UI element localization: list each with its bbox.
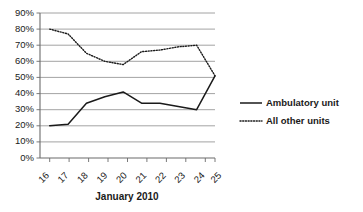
legend: Ambulatory unit All other units	[240, 97, 340, 126]
series-line-ambulatory-unit	[50, 76, 215, 126]
x-tick-label: 21	[133, 170, 148, 185]
y-tick-label: 60%	[15, 55, 35, 66]
legend-label-all-other-units: All other units	[266, 115, 330, 126]
y-tick-label: 0%	[20, 152, 34, 163]
x-tick-labels: 16 17 18 19 20 21 22 23 24 25	[36, 170, 224, 185]
x-tick-label: 18	[75, 170, 90, 185]
series-line-all-other-units	[50, 29, 215, 76]
y-tick-label: 10%	[15, 135, 35, 146]
y-tick-label: 50%	[15, 71, 35, 82]
y-tick-label: 70%	[15, 39, 35, 50]
y-tick-labels: 90% 80% 70% 60% 50% 40% 30% 20% 10% 0%	[15, 7, 35, 163]
x-tick-label: 19	[94, 170, 109, 185]
x-axis-title: January 2010	[95, 191, 159, 202]
y-tick-label: 20%	[15, 119, 35, 130]
x-tick-label: 25	[208, 170, 223, 185]
chart-canvas: 90% 80% 70% 60% 50% 40% 30% 20% 10% 0% 1…	[0, 0, 363, 212]
y-axis	[37, 13, 41, 158]
x-axis	[40, 158, 215, 162]
y-tick-label: 40%	[15, 87, 35, 98]
y-tick-label: 30%	[15, 103, 35, 114]
y-tick-label: 80%	[15, 23, 35, 34]
x-tick-label: 20	[114, 170, 129, 185]
legend-label-ambulatory-unit: Ambulatory unit	[266, 97, 340, 108]
gridlines	[40, 13, 215, 142]
x-tick-label: 22	[153, 170, 168, 185]
line-chart: 90% 80% 70% 60% 50% 40% 30% 20% 10% 0% 1…	[0, 0, 363, 212]
x-tick-label: 23	[172, 170, 187, 185]
x-tick-label: 16	[36, 170, 51, 185]
x-tick-label: 17	[55, 170, 70, 185]
x-tick-label: 24	[191, 170, 206, 185]
y-tick-label: 90%	[15, 7, 35, 18]
